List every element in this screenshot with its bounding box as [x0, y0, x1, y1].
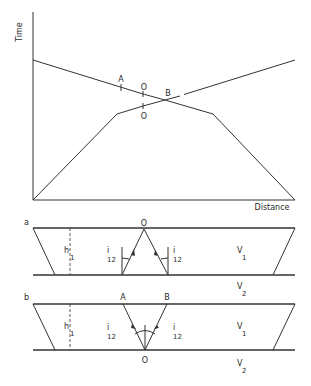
point-B-label: B — [164, 293, 170, 302]
panel-b-label: b — [24, 293, 29, 302]
v1-subscript: 1 — [242, 254, 246, 262]
reverse-traveltime-curve — [33, 60, 295, 200]
right-edge — [273, 304, 295, 350]
point-O-lower-label: O — [141, 112, 147, 121]
i12-left-subscript: 12 — [107, 333, 116, 341]
ray-arrow-down-icon — [154, 250, 158, 256]
seismic-refraction-figure: Time Distance A O B O a h 1 O — [0, 0, 311, 386]
i12-right-label: i — [173, 323, 175, 332]
time-axis-label: Time — [15, 22, 24, 43]
right-edge — [273, 228, 295, 275]
distance-axis-label: Distance — [255, 203, 290, 212]
forward-curve-continuation — [184, 60, 295, 95]
v2-subscript: 2 — [242, 290, 246, 298]
point-O-label: O — [142, 356, 148, 365]
angle-mark-right — [161, 258, 168, 259]
panel-b: b h 1 A B O i 12 i 12 V 1 V 2 — [24, 293, 295, 375]
h1-label: h — [64, 246, 69, 255]
left-edge — [33, 304, 55, 350]
i12-left-label: i — [107, 323, 109, 332]
point-O-label: O — [141, 219, 147, 228]
panel-a-label: a — [24, 218, 29, 227]
h1-subscript: 1 — [70, 330, 74, 338]
i12-right-subscript: 12 — [173, 256, 182, 264]
point-B-label: B — [165, 89, 171, 98]
v1-subscript: 1 — [242, 330, 246, 338]
angle-mark-left — [122, 258, 129, 259]
time-distance-graph: Time Distance A O B O — [15, 12, 295, 212]
point-A-label: A — [118, 75, 124, 84]
panel-a: a h 1 O i 12 i 12 V 1 V 2 — [24, 218, 295, 298]
diagram-canvas: Time Distance A O B O a h 1 O — [0, 0, 311, 386]
ray-path — [122, 229, 168, 275]
ray-arrow-left-icon — [131, 324, 136, 329]
i12-left-subscript: 12 — [107, 256, 116, 264]
h1-subscript: 1 — [70, 254, 74, 262]
left-edge — [33, 228, 55, 275]
i12-left-label: i — [107, 246, 109, 255]
i12-right-label: i — [173, 246, 175, 255]
point-O-upper-label: O — [141, 83, 147, 92]
i12-right-subscript: 12 — [173, 333, 182, 341]
point-A-label: A — [120, 293, 126, 302]
v2-subscript: 2 — [242, 367, 246, 375]
h1-label: h — [64, 322, 69, 331]
